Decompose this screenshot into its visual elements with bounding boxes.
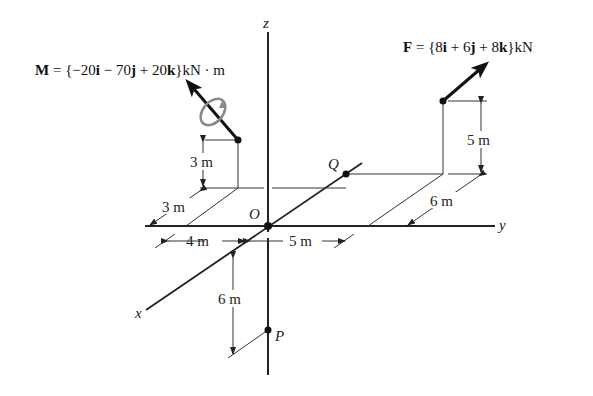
moment-equation: M = {−20i − 70j + 20k}kN · m — [35, 62, 225, 78]
moment-vector — [188, 82, 242, 144]
p-construction-lines — [228, 258, 268, 358]
svg-text:P: P — [274, 328, 284, 344]
force-equation: F = {8i + 6j + 8k}kN — [403, 39, 533, 55]
z-axis-label: z — [262, 15, 269, 31]
y-axis: y — [145, 217, 506, 233]
force-vector — [440, 64, 487, 105]
m-height-label: 3 m — [190, 154, 213, 170]
point-q: Q — [328, 156, 350, 178]
f-height-label: 5 m — [467, 132, 490, 148]
y-dimension-lines — [155, 232, 354, 248]
p-depth-label: 6 m — [218, 291, 241, 307]
z-axis: z — [262, 15, 269, 375]
diagram-canvas: z y x — [0, 0, 593, 396]
m-depth-label: 3 m — [162, 199, 185, 215]
y-axis-label: y — [497, 217, 506, 233]
left-y-label: 4 m — [186, 233, 209, 249]
f-depth-label: 6 m — [430, 193, 453, 209]
force-construction-lines — [346, 101, 487, 226]
right-y-label: 5 m — [289, 233, 312, 249]
svg-text:O: O — [249, 206, 260, 222]
x-axis-label: x — [134, 305, 142, 321]
svg-text:Q: Q — [328, 156, 339, 172]
